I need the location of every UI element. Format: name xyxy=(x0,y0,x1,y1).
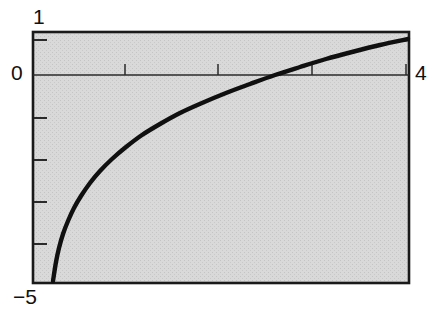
figure-container: 1 0 4 −5 xyxy=(0,0,441,315)
plot-svg xyxy=(0,0,441,315)
y-axis-zero-label: 0 xyxy=(11,62,23,83)
y-axis-min-label: −5 xyxy=(13,286,37,307)
y-axis-max-label: 1 xyxy=(33,6,45,27)
plot-area-background xyxy=(33,32,409,283)
x-axis-max-label: 4 xyxy=(415,62,427,83)
